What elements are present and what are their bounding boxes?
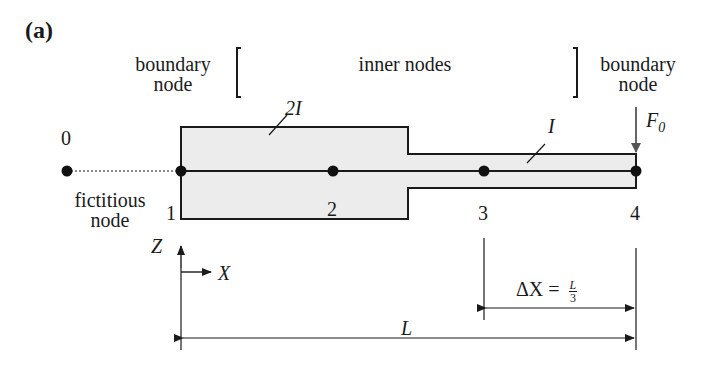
node-1 — [176, 166, 187, 177]
bracket-left — [237, 48, 241, 97]
length-L-label: L — [401, 318, 412, 338]
axis-z-label: Z — [151, 236, 162, 256]
boundary-right-label-2: node — [583, 74, 693, 94]
node-1-label: 1 — [166, 203, 176, 223]
axis-x-label: X — [218, 263, 230, 283]
node-2 — [328, 166, 339, 177]
node-2-label: 2 — [327, 199, 337, 219]
node-4-label: 4 — [630, 203, 640, 223]
inertia-I-label: I — [548, 116, 555, 136]
delta-x-label: ΔX = L 3 — [516, 279, 577, 304]
inner-nodes-label: inner nodes — [330, 54, 480, 74]
node-0 — [62, 166, 73, 177]
node-3 — [479, 166, 490, 177]
panel-label: (a) — [25, 20, 53, 40]
force-label: F0 — [646, 110, 665, 138]
boundary-left-label-1: boundary — [118, 54, 228, 74]
inertia-2I-label: 2I — [285, 98, 302, 118]
node-0-label: 0 — [61, 128, 71, 148]
node-3-label: 3 — [478, 203, 488, 223]
beam-outline — [181, 127, 636, 219]
fictitious-label-2: node — [55, 210, 165, 230]
boundary-right-label-1: boundary — [583, 54, 693, 74]
fictitious-label-1: fictitious — [55, 190, 165, 210]
bracket-right — [573, 48, 577, 97]
node-4 — [631, 166, 642, 177]
boundary-left-label-2: node — [118, 74, 228, 94]
